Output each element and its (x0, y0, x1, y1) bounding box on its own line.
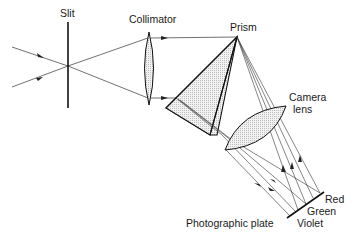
ray-arrows-out (254, 155, 302, 191)
label-prism: Prism (230, 21, 257, 33)
camera-lens (225, 106, 286, 150)
label-slit: Slit (60, 7, 75, 19)
label-collimator: Collimator (129, 13, 177, 25)
label-red: Red (325, 193, 344, 205)
collimator-lens (145, 32, 154, 105)
label-green: Green (307, 205, 336, 217)
spectrograph-diagram: Slit Collimator Prism Camera lens Red Gr… (0, 0, 356, 239)
label-camera: Camera (289, 91, 327, 103)
label-lens: lens (293, 103, 312, 115)
incoming-rays (12, 38, 148, 98)
ray-arrows-collimated (161, 36, 168, 100)
label-photographic-plate: Photographic plate (186, 217, 274, 229)
label-violet: Violet (297, 217, 323, 229)
dispersed-rays-bottom (176, 98, 320, 216)
